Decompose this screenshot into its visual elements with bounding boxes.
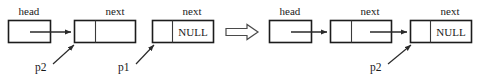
diagram-canvas: head next next NULL p2 — [0, 0, 484, 81]
before-head-label: head — [19, 5, 40, 17]
after-node-1: next — [331, 5, 392, 43]
before-pointer-p1-line — [136, 45, 154, 64]
before-node1-label: next — [106, 5, 125, 17]
after-pointer-p2-line — [388, 45, 411, 64]
after-head-node: head — [270, 5, 312, 43]
before-pointer-p1: p1 — [118, 45, 154, 74]
after-pointer-p2: p2 — [370, 45, 411, 74]
after-pointer-p2-label: p2 — [370, 61, 382, 74]
before-node-2: next NULL — [153, 5, 214, 43]
before-pointer-p2-label: p2 — [35, 61, 47, 74]
before-node2-null-value: NULL — [178, 26, 208, 38]
after-head-label: head — [280, 5, 301, 17]
before-pointer-p1-label: p1 — [118, 61, 130, 74]
before-node1-box — [75, 21, 136, 43]
linked-list-diagram: head next next NULL p2 — [0, 0, 484, 81]
before-pointer-p2: p2 — [35, 45, 74, 74]
before-node-1: next — [75, 5, 136, 43]
after-node2-null-value: NULL — [436, 26, 466, 38]
before-head-node: head — [9, 5, 51, 43]
after-node-2: next NULL — [411, 5, 472, 43]
before-node2-label: next — [183, 5, 202, 17]
before-pointer-p2-line — [53, 45, 74, 64]
panel-after: head next next NULL — [270, 5, 472, 74]
after-node1-label: next — [361, 5, 380, 17]
implies-arrow-icon — [226, 25, 258, 40]
panel-before: head next next NULL p2 — [9, 5, 214, 74]
after-node2-label: next — [441, 5, 460, 17]
